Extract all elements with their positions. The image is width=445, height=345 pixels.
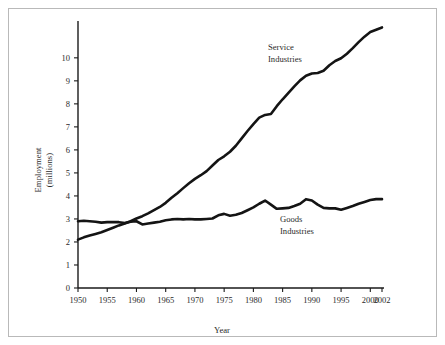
service-industries-label-line2: Industries: [268, 54, 303, 64]
goods-industries-label: Goods Industries: [280, 214, 315, 236]
x-axis-tick-label: 1975: [216, 295, 233, 305]
x-axis-tick-labels: 1950195519601965197019751980198519901995…: [70, 295, 391, 305]
series-line-goods-industries: [78, 199, 382, 224]
x-axis-tick-label: 1985: [274, 295, 291, 305]
x-axis-title: Year: [214, 325, 230, 335]
y-axis-title: Employment (millions): [33, 147, 54, 192]
chart-figure: 012345678910 195019551960196519701975198…: [0, 0, 445, 345]
y-axis-tick-label: 5: [66, 168, 70, 178]
x-axis-tick-label: 1990: [303, 295, 320, 305]
y-axis-tick-label: 7: [66, 122, 70, 132]
goods-industries-label-line1: Goods: [280, 214, 303, 224]
goods-industries-label-line2: Industries: [280, 226, 315, 236]
y-axis-tick-labels: 012345678910: [62, 53, 71, 293]
y-axis-tick-label: 2: [66, 237, 70, 247]
service-industries-label-line1: Service: [268, 42, 294, 52]
y-axis-tick-label: 9: [66, 76, 70, 86]
y-axis-tick-label: 4: [66, 191, 71, 201]
service-industries-label: Service Industries: [268, 42, 303, 64]
y-axis-title-line1: Employment: [33, 147, 43, 192]
x-axis-tick-label: 1965: [157, 295, 174, 305]
plot-area: 012345678910 195019551960196519701975198…: [0, 0, 445, 345]
y-axis-tick-label: 1: [66, 260, 70, 270]
y-axis-tick-label: 10: [62, 53, 71, 63]
y-axis-title-line2: (millions): [44, 153, 54, 187]
x-axis-tick-label: 1960: [128, 295, 145, 305]
y-axis-tick-label: 8: [66, 99, 70, 109]
x-axis-tick-label: 2002: [374, 295, 391, 305]
x-axis-tick-label: 1970: [186, 295, 203, 305]
x-axis-tick-label: 1955: [99, 295, 116, 305]
chart-svg: 012345678910 195019551960196519701975198…: [0, 0, 445, 345]
y-axis-tick-label: 3: [66, 214, 70, 224]
y-axis-tick-label: 6: [66, 145, 70, 155]
x-axis-tick-label: 1950: [70, 295, 87, 305]
y-axis-tick-label: 0: [66, 283, 70, 293]
x-axis-tick-label: 1995: [333, 295, 350, 305]
x-axis-tick-label: 1980: [245, 295, 262, 305]
